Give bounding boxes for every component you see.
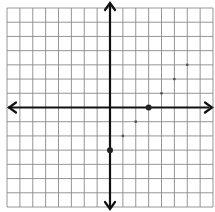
small-point [134, 120, 137, 123]
graph-svg [0, 0, 215, 212]
y-intercept-point [107, 147, 113, 153]
small-point [173, 78, 176, 81]
small-point [160, 92, 163, 95]
small-point [186, 63, 189, 66]
axes [8, 3, 212, 209]
small-point [121, 135, 124, 138]
x-intercept-point [146, 105, 152, 111]
coordinate-plane [0, 0, 215, 212]
